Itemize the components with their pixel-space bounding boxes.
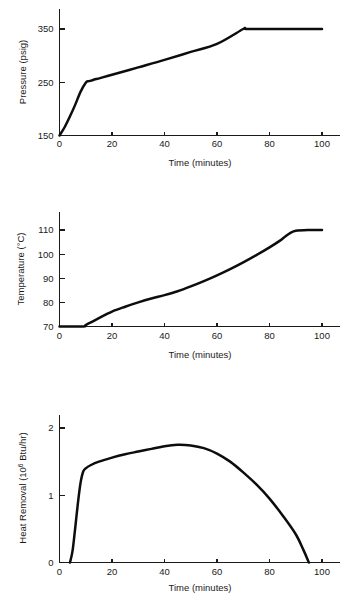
x-tick-label: 0 [57,566,62,577]
x-tick-label: 60 [212,330,223,341]
y-axis-title-prefix: Heat Removal (10 [17,467,28,544]
y-axis-title: Pressure (psig) [17,40,28,104]
x-tick-group [60,323,323,327]
x-tick-label: 0 [57,138,62,149]
y-tick-label: 2 [48,422,53,433]
y-tick-label: 110 [38,224,53,235]
x-tick-label: 80 [264,330,275,341]
pressure-data-curve [60,28,323,136]
process-trend-figure: 020406080100 150250350 Time (minutes) Pr… [0,0,353,612]
x-tick-label: 60 [212,566,223,577]
y-tick-label-group: 012 [48,422,53,568]
x-tick-label: 20 [107,566,118,577]
chart-panel-pressure: 020406080100 150250350 Time (minutes) Pr… [0,0,353,190]
x-tick-label: 60 [212,138,223,149]
y-tick-label: 1 [48,490,53,501]
y-tick-label: 90 [43,273,54,284]
x-tick-label: 100 [314,330,330,341]
x-tick-label-group: 020406080100 [57,330,330,341]
y-tick-group [60,428,65,563]
temperature-data-curve [60,230,323,327]
x-tick-group [60,559,323,563]
temperature-axes [60,212,341,327]
x-tick-label: 20 [107,138,118,149]
x-tick-label: 100 [314,566,330,577]
y-tick-label: 100 [38,249,54,260]
x-tick-label: 40 [159,138,170,149]
x-tick-group [60,132,323,136]
x-tick-label-group: 020406080100 [57,566,330,577]
x-tick-label: 80 [264,138,275,149]
y-tick-label-group: 708090100110 [38,224,54,332]
y-tick-label: 250 [38,77,54,88]
chart-panel-temperature: 020406080100 708090100110 Time (minutes)… [0,190,353,390]
y-tick-label: 70 [43,321,54,332]
y-tick-label: 0 [48,557,53,568]
y-tick-label: 150 [38,130,54,141]
y-axis-title-suffix: Btu/hr) [17,432,28,463]
x-axis-title: Time (minutes) [169,582,232,593]
y-tick-label: 350 [38,23,54,34]
y-tick-group [60,230,65,327]
heat-removal-chart: 020406080100 012 Time (minutes) Heat Rem… [0,390,353,612]
x-tick-label: 80 [264,566,275,577]
y-axis-title: Heat Removal (106 Btu/hr) [17,432,28,543]
y-axis-title: Temperature (°C) [15,233,26,306]
x-axis-title: Time (minutes) [169,157,232,168]
y-tick-label: 80 [43,297,54,308]
x-tick-label: 100 [314,138,330,149]
x-tick-label: 0 [57,330,62,341]
x-axis-title: Time (minutes) [169,349,232,360]
pressure-chart: 020406080100 150250350 Time (minutes) Pr… [0,0,353,190]
x-tick-label-group: 020406080100 [57,138,330,149]
y-tick-label-group: 150250350 [38,23,54,140]
x-tick-label: 20 [107,330,118,341]
y-tick-group [60,29,65,136]
heat-removal-data-curve [70,445,309,563]
temperature-chart: 020406080100 708090100110 Time (minutes)… [0,190,353,390]
x-tick-label: 40 [159,330,170,341]
x-tick-label: 40 [159,566,170,577]
chart-panel-heat-removal: 020406080100 012 Time (minutes) Heat Rem… [0,390,353,612]
